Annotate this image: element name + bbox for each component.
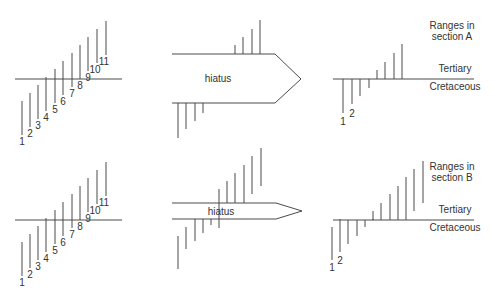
- taxon-label: 7: [69, 229, 75, 240]
- taxon-label: 2: [337, 255, 343, 266]
- hiatus-arrow-panel: hiatus: [172, 20, 301, 138]
- tertiary-label: Tertiary: [439, 204, 472, 215]
- taxon-label: 6: [60, 237, 66, 248]
- taxon-label: 5: [52, 245, 58, 256]
- range-diagram: 1234567891011hiatus12Ranges insection AT…: [0, 0, 494, 299]
- tertiary-label: Tertiary: [439, 63, 472, 74]
- taxon-label: 4: [43, 253, 49, 264]
- section-a-panel: 1234567891011hiatus12Ranges insection AT…: [15, 20, 481, 147]
- hiatus-arrow: [172, 203, 302, 219]
- section-title-line1: Ranges in: [429, 20, 474, 31]
- taxon-label: 8: [77, 80, 83, 91]
- taxon-label: 1: [19, 136, 25, 147]
- taxon-label: 8: [77, 221, 83, 232]
- taxon-label: 1: [19, 277, 25, 288]
- observed-ranges-panel: 12Ranges insection BTertiaryCretaceous: [329, 161, 480, 273]
- cretaceous-label: Cretaceous: [429, 222, 480, 233]
- taxon-label: 11: [99, 197, 110, 208]
- taxon-label: 2: [349, 108, 355, 119]
- hiatus-arrow-panel: hiatus: [172, 148, 302, 269]
- section-title-line2: section A: [432, 31, 473, 42]
- observed-ranges-panel: 12Ranges insection ATertiaryCretaceous: [333, 20, 481, 127]
- taxon-label: 6: [60, 96, 66, 107]
- section-title-line2: section B: [431, 172, 472, 183]
- section-b-panel: 1234567891011hiatus12Ranges insection BT…: [15, 148, 481, 288]
- taxon-label: 1: [329, 262, 335, 273]
- complete-ranges-panel: 1234567891011: [15, 162, 122, 288]
- taxon-label: 11: [99, 56, 110, 67]
- taxon-label: 5: [52, 104, 58, 115]
- taxon-label: 7: [69, 88, 75, 99]
- complete-ranges-panel: 1234567891011: [15, 21, 122, 147]
- taxon-label: 1: [340, 116, 346, 127]
- hiatus-label: hiatus: [208, 206, 235, 217]
- taxon-label: 2: [27, 128, 33, 139]
- hiatus-arrow: [172, 54, 301, 103]
- taxon-label: 3: [35, 120, 41, 131]
- taxon-label: 2: [27, 269, 33, 280]
- section-title-line1: Ranges in: [429, 161, 474, 172]
- hiatus-label: hiatus: [205, 73, 232, 84]
- cretaceous-label: Cretaceous: [429, 81, 480, 92]
- taxon-label: 3: [35, 261, 41, 272]
- taxon-label: 4: [43, 112, 49, 123]
